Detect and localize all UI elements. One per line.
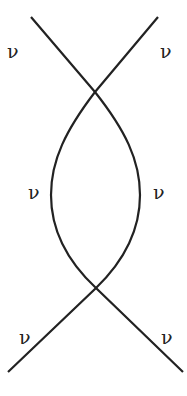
label-top-left: ν (7, 42, 19, 61)
label-top-right: ν (160, 42, 172, 61)
label-bottom-right: ν (161, 328, 173, 347)
label-mid-right: ν (153, 183, 165, 202)
label-mid-left: ν (28, 183, 40, 202)
label-bottom-left: ν (19, 328, 31, 347)
